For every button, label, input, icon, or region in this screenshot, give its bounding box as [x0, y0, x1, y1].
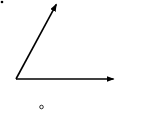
corner-dot: [1, 1, 4, 4]
upper-ray-arrow: [16, 4, 56, 79]
degree-symbol: [40, 105, 44, 109]
angle-diagram: [0, 0, 148, 113]
